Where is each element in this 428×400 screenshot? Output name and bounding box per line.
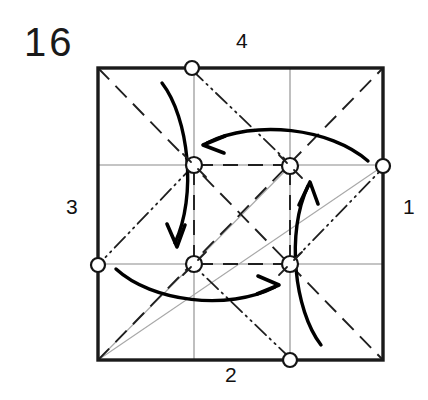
mountain-innerbr-rightedge <box>290 168 383 264</box>
mountain-innertl-leftedge <box>99 165 194 264</box>
edge-label-right: 1 <box>403 196 415 217</box>
arrow-rightward-shaft <box>116 269 275 301</box>
step-number: 16 <box>24 22 75 62</box>
valley-folds <box>98 68 383 360</box>
reference-diagonals <box>98 164 383 360</box>
marker-bottom-center <box>283 353 297 367</box>
arrow-leftward-shaft <box>207 129 368 161</box>
arrow-rightward <box>116 269 279 301</box>
edge-label-left: 3 <box>66 196 78 217</box>
stub-inner-tr-b <box>294 170 302 178</box>
stub-inner-tl-b <box>198 169 206 177</box>
marker-left-edge <box>91 258 105 272</box>
marker-right-edge <box>376 159 390 173</box>
mountain-topcenter-innertr <box>192 70 290 164</box>
marker-top-center <box>185 61 199 75</box>
arrow-leftward <box>203 129 368 161</box>
arrow-downward-head <box>167 224 185 247</box>
arrow-downward-shaft <box>162 83 188 243</box>
origami-figure: 16 4 1 2 3 <box>0 0 428 400</box>
edge-label-bottom: 2 <box>225 364 237 385</box>
arrow-upward-head <box>299 182 318 205</box>
arrow-rightward-head <box>257 276 279 294</box>
mountain-bottomcenter-innerbl <box>194 266 290 358</box>
ref-diagonal-bl-rightedge <box>98 166 383 360</box>
arrow-upward-shaft <box>295 186 321 345</box>
edge-label-top: 4 <box>236 30 248 51</box>
stub-inner-bl-b <box>198 252 206 260</box>
